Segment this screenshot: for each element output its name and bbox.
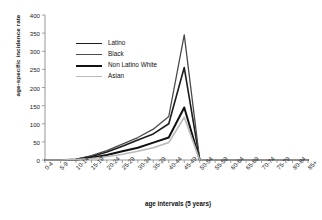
legend-swatch-icon (76, 76, 102, 77)
x-tick-label: 25-29 (120, 155, 136, 171)
x-tick-label: 55-59 (213, 155, 229, 171)
chart-container: age-specific incidence rate age interval… (0, 0, 322, 220)
x-tick-label: 80-84 (291, 155, 307, 171)
x-tick-label: 10-14 (74, 155, 90, 171)
legend-item: Asian (76, 71, 157, 82)
legend-item: Latino (76, 38, 157, 49)
x-tick-label: 15-19 (89, 155, 105, 171)
x-tick-label: 65-69 (244, 155, 260, 171)
legend-item: Black (76, 49, 157, 60)
x-tick-label: 50-54 (198, 155, 214, 171)
legend-swatch-icon (76, 65, 102, 67)
legend-item-label: Asian (108, 73, 124, 79)
x-tick-label: 75-79 (275, 155, 291, 171)
x-tick-label: 85+ (306, 159, 318, 171)
x-tick-label: 70-74 (260, 155, 276, 171)
x-tick-label: 30-34 (136, 155, 152, 171)
x-axis-ticks: 0-45-910-1415-1920-2425-2930-3435-3940-4… (0, 0, 322, 220)
x-tick-label: 20-24 (105, 155, 121, 171)
legend-item-label: Non Latino White (108, 62, 157, 68)
chart-legend: LatinoBlackNon Latino WhiteAsian (76, 38, 157, 82)
legend-swatch-icon (76, 54, 102, 55)
legend-item-label: Latino (108, 40, 125, 46)
legend-item: Non Latino White (76, 60, 157, 71)
x-tick-label: 5-9 (58, 160, 69, 171)
x-tick-label: 0-4 (43, 160, 54, 171)
x-tick-label: 45-49 (182, 155, 198, 171)
x-tick-label: 60-64 (229, 155, 245, 171)
x-tick-label: 40-44 (167, 155, 183, 171)
x-tick-label: 35-39 (151, 155, 167, 171)
legend-swatch-icon (76, 43, 102, 44)
legend-item-label: Black (108, 51, 124, 57)
